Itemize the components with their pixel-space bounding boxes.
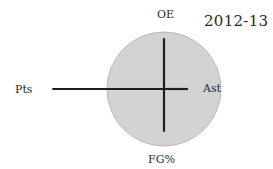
axis-label-fg-pct: FG% (148, 154, 175, 165)
axis-label-oe: OE (157, 9, 174, 20)
chart-title: 2012-13 (204, 14, 268, 29)
axis-label-ast: Ast (203, 83, 221, 94)
axis-label-pts: Pts (15, 84, 32, 95)
chart-canvas: 2012-13 OE Ast FG% Pts (0, 0, 273, 169)
